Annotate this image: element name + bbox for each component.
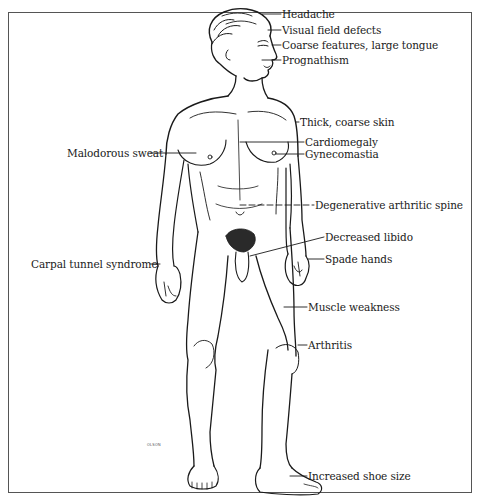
head-drawing <box>209 9 276 98</box>
label-coarse-features: Coarse features, large tongue <box>282 39 438 51</box>
label-gynecomastia: Gynecomastia <box>305 148 379 160</box>
left-arm-drawing <box>156 154 184 303</box>
label-arthritis: Arthritis <box>308 339 352 351</box>
label-spade-hands: Spade hands <box>325 253 392 265</box>
right-arm-drawing <box>285 156 309 285</box>
label-visual-field-defects: Visual field defects <box>282 24 381 36</box>
acromegaly-figure-illustration <box>0 0 480 501</box>
label-prognathism: Prognathism <box>282 54 349 66</box>
label-increased-shoe-size: Increased shoe size <box>308 470 411 482</box>
label-thick-coarse-skin: Thick, coarse skin <box>300 116 395 128</box>
label-cardiomegaly: Cardiomegaly <box>305 136 378 148</box>
label-degenerative-arthritic-spine: Degenerative arthritic spine <box>315 199 463 211</box>
label-carpal-tunnel-syndrome: Carpal tunnel syndrome <box>31 258 158 270</box>
label-malodorous-sweat: Malodorous sweat <box>67 147 163 159</box>
label-decreased-libido: Decreased libido <box>325 231 413 243</box>
right-leg-drawing <box>256 228 322 495</box>
label-headache: Headache <box>282 8 335 20</box>
label-muscle-weakness: Muscle weakness <box>308 301 400 313</box>
torso-drawing <box>166 96 298 232</box>
artist-signature: OLSON <box>147 443 161 447</box>
left-leg-drawing <box>187 232 229 489</box>
